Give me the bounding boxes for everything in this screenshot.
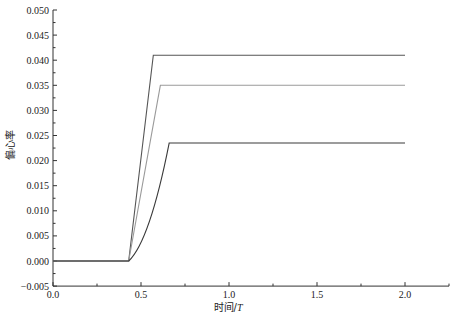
y-axis-title: 偏心率 bbox=[4, 130, 16, 160]
series-line-curve-middle bbox=[53, 85, 405, 261]
x-tick-label: 2.0 bbox=[399, 289, 412, 300]
eccentricity-chart: −0.0050.0000.0050.0100.0150.0200.0250.03… bbox=[0, 0, 454, 317]
y-tick-label: 0.005 bbox=[27, 230, 50, 241]
series-group bbox=[53, 55, 405, 261]
y-tick-label: 0.025 bbox=[27, 130, 50, 141]
y-tick-label: 0.030 bbox=[27, 105, 50, 116]
series-line-curve-top bbox=[53, 55, 405, 261]
y-tick-label: 0.000 bbox=[27, 256, 50, 267]
y-tick-label: −0.005 bbox=[21, 281, 49, 292]
x-tick-label: 0.5 bbox=[135, 289, 148, 300]
y-tick-label: 0.015 bbox=[27, 180, 50, 191]
y-tick-label: 0.010 bbox=[27, 205, 50, 216]
y-tick-label: 0.045 bbox=[27, 30, 50, 41]
x-tick-label: 1.0 bbox=[223, 289, 236, 300]
x-axis-title: 时间/T bbox=[214, 301, 244, 313]
series-line-curve-bottom bbox=[53, 143, 405, 261]
y-tick-label: 0.040 bbox=[27, 55, 50, 66]
x-tick-label: 0.0 bbox=[47, 289, 60, 300]
x-tick-label: 1.5 bbox=[311, 289, 324, 300]
y-tick-label: 0.035 bbox=[27, 80, 50, 91]
y-tick-label: 0.020 bbox=[27, 155, 50, 166]
axes: −0.0050.0000.0050.0100.0150.0200.0250.03… bbox=[21, 5, 449, 301]
y-tick-label: 0.050 bbox=[27, 5, 50, 16]
